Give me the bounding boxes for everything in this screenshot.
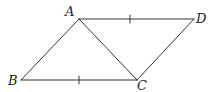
vertex-label-A: A — [64, 4, 74, 19]
segment-AB — [21, 19, 79, 80]
diagram-canvas: A D B C — [0, 0, 215, 92]
segment-AC — [79, 19, 137, 80]
vertex-label-C: C — [137, 78, 147, 92]
vertex-label-D: D — [195, 11, 207, 26]
vertex-label-B: B — [7, 73, 18, 88]
segment-CD — [137, 19, 194, 80]
parallelogram-diagram: A D B C — [0, 0, 215, 92]
